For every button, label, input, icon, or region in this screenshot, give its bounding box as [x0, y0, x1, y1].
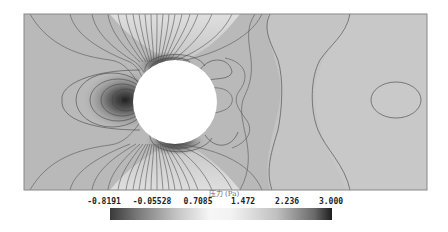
colorbar-tick-label: -0.05528 — [133, 197, 172, 206]
colorbar-ticks: -0.8191 -0.05528 0.7085 1.472 2.236 3.00… — [0, 197, 448, 207]
colorbar-tick-label: 2.236 — [275, 197, 299, 206]
colorbar-tick-label: -0.8191 — [87, 197, 121, 206]
colorbar-tick-label: 3.000 — [319, 197, 343, 206]
colorbar-tick-label: 0.7085 — [184, 197, 213, 206]
colorbar-tick-label: 1.472 — [231, 197, 255, 206]
colorbar — [110, 208, 332, 220]
cylinder-obstacle — [133, 60, 217, 144]
